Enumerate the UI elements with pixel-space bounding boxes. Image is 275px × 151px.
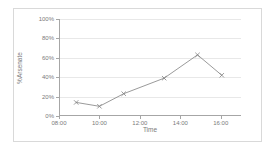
y-axis-tick-label: 40% (42, 74, 54, 80)
data-point-marker (162, 76, 166, 80)
y-axis-tick-label: 100% (39, 16, 54, 22)
data-point-marker (122, 91, 126, 95)
series-line-arsenate (59, 19, 241, 116)
x-axis-title: Time (59, 127, 241, 134)
x-axis-tick (59, 116, 60, 119)
x-axis-tick (99, 116, 100, 119)
x-axis-tick (140, 116, 141, 119)
y-axis-title: %Arsenate (17, 52, 24, 84)
x-axis-tick-label: 10:00 (92, 120, 107, 126)
data-point-marker (195, 53, 199, 57)
data-point-marker (220, 73, 224, 77)
series-line (76, 55, 222, 106)
x-axis-tick-label: 08:00 (51, 120, 66, 126)
x-axis-tick-label: 16:00 (213, 120, 228, 126)
x-axis-tick-label: 14:00 (173, 120, 188, 126)
y-axis-tick-label: 60% (42, 55, 54, 61)
y-axis-tick-label: 20% (42, 94, 54, 100)
plot-area: 0%20%40%60%80%100% 08:0010:0012:0014:001… (59, 19, 241, 116)
y-axis-tick-label: 0% (45, 113, 54, 119)
x-axis-tick (221, 116, 222, 119)
y-axis-tick-label: 80% (42, 35, 54, 41)
x-axis-tick (180, 116, 181, 119)
chart-frame: %Arsenate 0%20%40%60%80%100% 08:0010:001… (13, 8, 262, 142)
